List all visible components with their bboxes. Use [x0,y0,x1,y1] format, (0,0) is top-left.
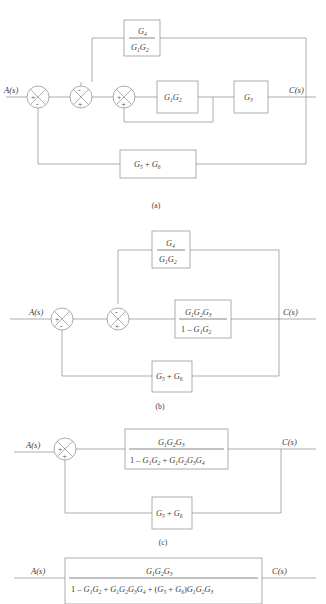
panel-b-forward-numerator: G1G2G3 [185,308,212,318]
panel-a-summer-1-sign-left: + [31,93,35,102]
panel-b-caption: (b) [156,402,165,411]
panel-a-outer-return-left [38,108,120,164]
panel-b-forward-denominator: 1 – G1G2 [181,325,211,335]
panel-d-overall-transfer-function-block [65,558,262,604]
panel-a: G4 G1G2 A(s) + - - + + + G1G2 [3,20,316,210]
panel-c: A(s) + + G1G2G3 1 – G1G2 + G1G2G3G4 C(s)… [14,429,316,547]
panel-c-output-label: C(s) [282,437,297,447]
panel-d-output-label: C(s) [272,566,287,576]
panel-b-summer-1-sign-left: + [55,315,59,324]
panel-d-denominator: 1 – G1G2 + G1G2G3G4 + (G5 + G6)G1G2G3 [71,585,214,595]
panel-c-caption: (c) [159,538,168,547]
panel-b-output-label: C(s) [283,307,298,317]
panel-b-outer-return-left [62,330,152,376]
panel-b-summer-2-sign-bottom: + [115,322,119,331]
panel-b-ratio-to-summer2 [118,250,152,304]
panel-d-numerator: G1G2G3 [146,567,173,577]
panel-b-input-label: A(s) [28,307,43,317]
panel-a-output-label: C(s) [289,85,304,95]
panel-c-summer-1-sign-bottom: + [63,452,67,461]
panel-b: G4 G1G2 A(s) + - - + G1G2G3 1 – G1G2 C(s… [10,231,316,411]
panel-b-g5g6-label: G5 + G6 [156,372,183,382]
block-diagram-figure: G4 G1G2 A(s) + - - + + + G1G2 [0,0,326,604]
panel-a-summer-3-sign-bottom: + [122,100,126,109]
panel-a-g5g6-label: G5 + G6 [134,160,161,170]
panel-a-summer-2-sign-bottom: + [78,100,82,109]
panel-d-input-label: A(s) [30,566,45,576]
panel-d: A(s) G1G2G3 1 – G1G2 + G1G2G3G4 + (G5 + … [14,558,316,604]
panel-c-input-label: A(s) [25,440,40,450]
panel-a-input-label: A(s) [3,85,18,95]
panel-a-ratio-to-summer2 [92,38,124,82]
panel-c-g5g6-label: G5 + G6 [156,509,183,519]
panel-a-caption: (a) [152,201,161,210]
panel-c-forward-numerator: G1G2G3 [158,438,185,448]
